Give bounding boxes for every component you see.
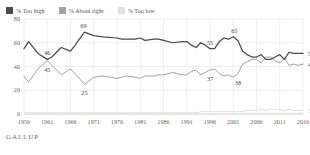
legend-item-too-low[interactable]: % Too low [118,7,155,14]
y-axis-tick: 20 [14,87,20,93]
y-axis-labels: 020406080 [0,19,22,114]
x-axis-tick: 1981 [134,118,146,126]
legend-swatch-icon [118,7,125,14]
data-point-label: 65 [231,26,237,33]
data-point-label: 45 [44,65,50,72]
chart-page: % Too high % About right % Too low 02040… [0,0,310,155]
data-point-label: 69 [80,22,86,29]
y-axis-tick: 0 [17,111,20,117]
data-point-label: 42 [308,61,310,68]
x-axis-tick: 1986 [157,118,169,126]
data-point-label: 3 [308,107,310,114]
x-axis-tick: 1991 [181,118,193,126]
data-point-label: 51 [308,50,310,57]
data-point-label: 37 [207,75,213,82]
legend-swatch-icon [59,7,66,14]
x-axis-tick: 2001 [227,118,239,126]
legend-swatch-icon [6,7,13,14]
data-point-label: 46 [44,49,50,56]
y-axis-tick: 40 [14,64,20,70]
legend-label: % About right [69,7,104,14]
gallup-brand: GALLUP [6,133,39,141]
data-point-label: 55 [207,38,213,45]
x-axis-tick: 1961 [41,118,53,126]
y-axis-tick: 60 [14,40,20,46]
plot-area [24,19,303,114]
x-axis-tick: 2011 [274,118,286,126]
x-axis-labels: 1956196119661971197619811986199119962001… [24,118,303,130]
legend-item-too-high[interactable]: % Too high [6,7,45,14]
x-axis-tick: 2016 [297,118,309,126]
x-axis-tick: 1966 [64,118,76,126]
x-axis-tick: 1996 [204,118,216,126]
legend-label: % Too high [16,7,45,14]
legend-item-about-right[interactable]: % About right [59,7,104,14]
y-axis-tick: 80 [14,16,20,22]
x-axis-tick: 1956 [18,118,30,126]
x-axis-tick: 1976 [111,118,123,126]
chart-legend: % Too high % About right % Too low [6,4,155,17]
x-axis-tick: 1971 [88,118,100,126]
x-axis-tick: 2006 [250,118,262,126]
line-chart [24,19,303,114]
data-point-label: 25 [81,89,87,96]
data-point-label: 38 [235,78,241,85]
legend-label: % Too low [128,7,155,14]
